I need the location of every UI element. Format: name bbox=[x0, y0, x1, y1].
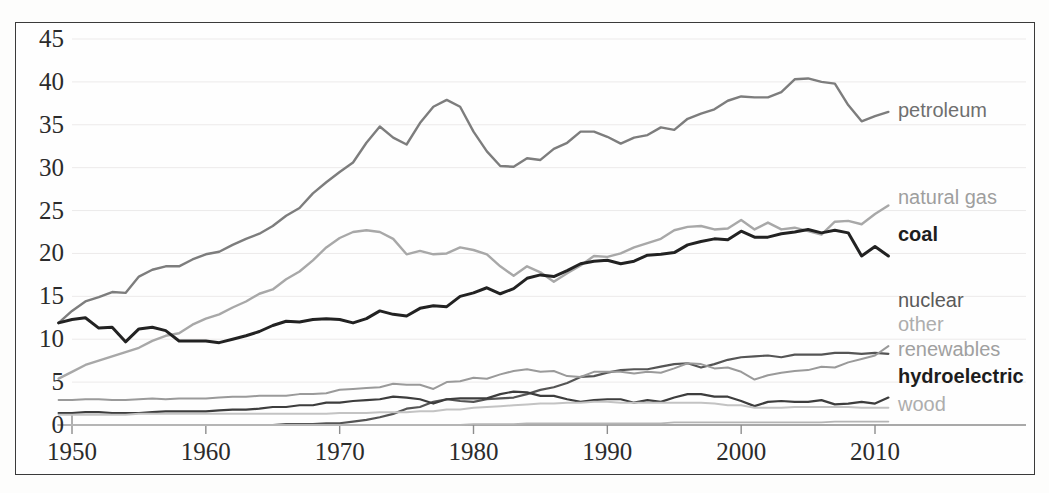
y-tick-label: 35 bbox=[16, 112, 64, 137]
series-label-natural-gas: natural gas bbox=[898, 187, 997, 207]
series-line-coal bbox=[59, 229, 889, 342]
x-tick-label: 2000 bbox=[695, 439, 787, 464]
y-tick-label: 15 bbox=[16, 283, 64, 308]
series-paths-group bbox=[59, 78, 889, 425]
y-tick-label: 40 bbox=[16, 69, 64, 94]
axis-ticks-group bbox=[72, 425, 875, 434]
x-tick-label: 1950 bbox=[26, 439, 118, 464]
x-tick-label: 1980 bbox=[428, 439, 520, 464]
y-tick-label: 0 bbox=[16, 412, 64, 437]
series-label-wood: wood bbox=[898, 394, 946, 414]
series-label-other: other bbox=[898, 314, 944, 334]
y-tick-label: 5 bbox=[16, 369, 64, 394]
chart-plot-area bbox=[0, 0, 1049, 493]
x-tick-label: 1960 bbox=[160, 439, 252, 464]
x-tick-label: 2010 bbox=[829, 439, 921, 464]
series-label-coal: coal bbox=[898, 224, 938, 244]
y-tick-label: 25 bbox=[16, 198, 64, 223]
y-tick-label: 30 bbox=[16, 155, 64, 180]
series-label-renewables: renewables bbox=[898, 339, 1000, 359]
series-label-petroleum: petroleum bbox=[898, 100, 987, 120]
y-tick-label: 20 bbox=[16, 240, 64, 265]
gridlines-group bbox=[72, 39, 1026, 382]
series-line-petroleum bbox=[59, 78, 889, 322]
series-line-renewables bbox=[59, 346, 889, 400]
x-tick-label: 1970 bbox=[294, 439, 386, 464]
x-tick-label: 1990 bbox=[561, 439, 653, 464]
y-tick-label: 45 bbox=[16, 26, 64, 51]
series-label-hydroelectric: hydroelectric bbox=[898, 366, 1024, 386]
energy-consumption-chart-figure: 051015202530354045 195019601970198019902… bbox=[0, 0, 1049, 493]
y-tick-label: 10 bbox=[16, 326, 64, 351]
series-label-nuclear: nuclear bbox=[898, 290, 964, 310]
